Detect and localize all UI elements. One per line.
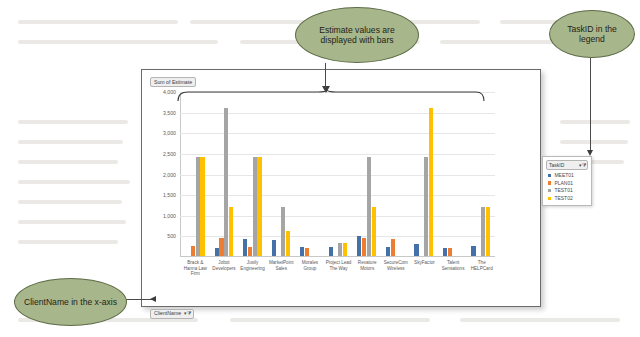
bar-plan01[interactable] [305, 248, 309, 256]
bar-group [466, 92, 495, 256]
bar-plan01[interactable] [191, 246, 195, 256]
legend-label: MEET01 [554, 173, 573, 178]
bar-group [210, 92, 239, 256]
bar-test02[interactable] [229, 207, 233, 257]
x-axis-tick-label: SkyFactor [410, 260, 439, 277]
bar-test01[interactable] [281, 207, 285, 257]
clientname-field-button[interactable]: ClientName ▾⧩ [150, 309, 194, 319]
bar-test02[interactable] [257, 157, 261, 256]
background-text-line [18, 180, 130, 184]
brace-annotation [176, 90, 486, 102]
bar-group [381, 92, 410, 256]
bar-meet01[interactable] [471, 246, 475, 256]
bar-test01[interactable] [338, 243, 342, 256]
bar-test01[interactable] [224, 108, 228, 257]
legend-swatch-icon [548, 181, 551, 184]
clientname-callout-arrow-icon [150, 296, 156, 302]
bar-meet01[interactable] [357, 236, 361, 256]
bar-meet01[interactable] [300, 247, 304, 256]
bar-test01[interactable] [424, 157, 428, 256]
callout-estimate: Estimate values are displayed with bars [295, 7, 419, 63]
background-text-line [460, 318, 620, 322]
bar-meet01[interactable] [414, 244, 418, 256]
bar-plan01[interactable] [448, 248, 452, 256]
legend-item[interactable]: TEST02 [548, 196, 588, 201]
bar-test01[interactable] [196, 157, 200, 256]
callout-taskid-text: TaskID in the legend [556, 24, 628, 45]
bar-meet01[interactable] [215, 248, 219, 256]
bar-test01[interactable] [481, 207, 485, 257]
bar-plan01[interactable] [248, 247, 252, 256]
background-text-line [18, 240, 118, 244]
estimate-callout-leader-line [325, 63, 326, 88]
legend-items: MEET01PLAN01TEST01TEST02 [546, 173, 588, 201]
x-axis-tick-label: Project Lead The Way [324, 260, 353, 277]
bar-group [267, 92, 296, 256]
bar-meet01[interactable] [443, 248, 447, 256]
bar-group [352, 92, 381, 256]
background-text-line [18, 160, 118, 164]
y-axis-tick-label: 500 [167, 233, 176, 239]
y-axis-tick-label: 3,500 [163, 110, 176, 116]
sum-of-estimate-field-button[interactable]: Sum of Estimate [150, 77, 196, 87]
callout-clientname-text: ClientName in the x-axis [24, 297, 117, 307]
bar-group [295, 92, 324, 256]
legend-item[interactable]: PLAN01 [548, 181, 588, 186]
legend-item[interactable]: TEST01 [548, 188, 588, 193]
bar-meet01[interactable] [243, 239, 247, 256]
clientname-label: ClientName [154, 311, 181, 316]
bar-test02[interactable] [286, 231, 290, 256]
bar-test01[interactable] [253, 157, 257, 256]
bar-plan01[interactable] [362, 238, 366, 256]
legend-label: PLAN01 [554, 181, 573, 186]
bar-meet01[interactable] [272, 240, 276, 256]
callout-estimate-text: Estimate values are displayed with bars [302, 25, 412, 46]
x-axis-tick-label: The HELPCard [467, 260, 496, 277]
background-text-line [190, 20, 310, 24]
bar-group [181, 92, 210, 256]
background-text-line [560, 120, 630, 124]
chart-container: Sum of Estimate ClientName ▾⧩ 4,0003,500… [141, 69, 541, 307]
bar-test02[interactable] [200, 157, 204, 256]
x-axis-tick-label: Jobot Developers [210, 260, 239, 277]
filter-dropdown-icon[interactable]: ▾⧩ [579, 163, 585, 168]
legend: TaskID ▾⧩ MEET01PLAN01TEST01TEST02 [542, 156, 592, 206]
y-axis-tick-label: 4,000 [163, 89, 176, 95]
x-axis-tick-label: MarketPoint Sales [267, 260, 296, 277]
bar-test02[interactable] [429, 108, 433, 257]
bar-group [324, 92, 353, 256]
bar-test01[interactable] [367, 157, 371, 256]
x-axis-tick-label: Morales Group [296, 260, 325, 277]
y-axis-tick-label: 1,000 [163, 213, 176, 219]
background-text-line [230, 318, 430, 322]
y-axis-tick-label: 3,000 [163, 130, 176, 136]
x-axis-tick-label: Talent Sensations [439, 260, 468, 277]
x-axis-tick-label: Jusily Engineering [238, 260, 267, 277]
legend-swatch-icon [548, 197, 551, 200]
x-axis-tick-label: Brack & Hanna Law Firm [181, 260, 210, 277]
bar-test02[interactable] [372, 207, 376, 257]
y-axis-tick-label: 2,500 [163, 151, 176, 157]
background-text-line [560, 140, 628, 144]
x-axis-tick-label: Revature Motors [353, 260, 382, 277]
bar-meet01[interactable] [329, 247, 333, 256]
legend-label: TEST01 [554, 188, 572, 193]
taskid-field-button[interactable]: TaskID ▾⧩ [546, 160, 588, 170]
bar-meet01[interactable] [386, 247, 390, 256]
background-text-line [18, 120, 128, 124]
background-text-line [18, 20, 178, 24]
legend-item[interactable]: MEET01 [548, 173, 588, 178]
background-text-line [18, 140, 123, 144]
x-axis-tick-labels: Brack & Hanna Law FirmJobot DevelopersJu… [181, 260, 496, 277]
bar-test02[interactable] [343, 243, 347, 256]
background-text-line [18, 200, 122, 204]
filter-dropdown-icon[interactable]: ▾⧩ [184, 311, 190, 316]
background-text-line [18, 40, 218, 44]
bar-test02[interactable] [486, 207, 490, 257]
background-text-line [18, 220, 126, 224]
bar-plan01[interactable] [391, 239, 395, 256]
x-axis-line [180, 256, 495, 257]
bar-plan01[interactable] [219, 238, 223, 256]
x-axis-tick-label: SecureCom Wireless [381, 260, 410, 277]
bar-group [238, 92, 267, 256]
